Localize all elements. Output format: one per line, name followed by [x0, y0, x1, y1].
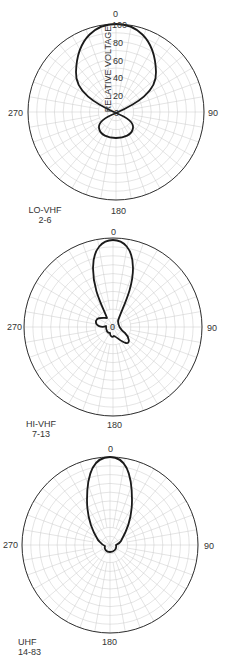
- chart2-angle-0: 0: [111, 227, 116, 237]
- chart3-angle-180: 180: [102, 637, 117, 647]
- chart2-center-0: 0: [110, 322, 115, 332]
- chart1-channels: 2-6: [26, 215, 64, 225]
- chart3-band: UHF: [18, 637, 48, 647]
- chart2-angle-90: 90: [207, 323, 217, 333]
- polar-chart-3: [22, 457, 198, 633]
- chart3-angle-0: 0: [108, 444, 113, 454]
- radial-tick-60: 60: [113, 56, 123, 66]
- chart1-band-label: LO-VHF 2-6: [26, 205, 64, 225]
- chart3-band-label: UHF 14-83: [18, 637, 48, 657]
- chart2-band: HI-VHF: [22, 419, 60, 429]
- radial-tick-80: 80: [113, 38, 123, 48]
- chart2-channels: 7-13: [22, 429, 60, 439]
- radial-tick-40: 40: [113, 73, 123, 83]
- radial-tick-20: 20: [113, 91, 123, 101]
- chart2-band-label: HI-VHF 7-13: [22, 419, 60, 439]
- chart2-angle-270: 270: [7, 322, 22, 332]
- chart1-angle-0: 0: [113, 9, 118, 19]
- chart3-angle-90: 90: [204, 541, 214, 551]
- chart3-channels: 14-83: [18, 647, 48, 657]
- chart2-angle-180: 180: [107, 420, 122, 430]
- chart1-angle-90: 90: [208, 108, 218, 118]
- chart1-angle-180: 180: [111, 206, 126, 216]
- chart3-angle-270: 270: [3, 540, 18, 550]
- radial-axis-label: RELATIVE VOLTAGE: [103, 19, 113, 119]
- chart1-angle-270: 270: [8, 108, 23, 118]
- radial-tick-100: 100: [112, 20, 127, 30]
- chart1-band: LO-VHF: [26, 205, 64, 215]
- radial-tick-0: 0: [114, 108, 119, 118]
